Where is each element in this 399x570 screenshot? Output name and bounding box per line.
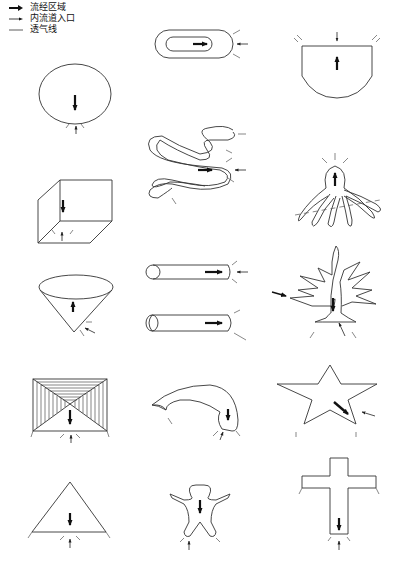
legend-item-vent-line: 透气线 [8,24,75,35]
legend-label: 流经区域 [30,2,66,13]
inlet-arrow-icon [85,328,95,333]
gating-diagram [0,0,399,570]
legend-label: 透气线 [30,24,57,35]
line-icon [8,26,24,34]
shape-horn [152,385,240,440]
shape-tree [272,246,376,338]
shape-bowl [294,32,380,98]
shape-snake [149,126,247,204]
inlet-arrow-icon [362,412,375,416]
thick-arrow-icon [8,4,24,12]
legend-label: 内流道入口 [30,13,75,24]
legend: 流经区域 内流道入口 透气线 [8,2,75,35]
flow-arrow-icon [334,402,348,414]
shape-tubes [146,261,248,340]
shape-triangle [28,482,110,548]
shape-star [277,365,377,437]
shape-pyramid-frame [31,379,109,443]
inlet-arrow-icon [220,432,223,440]
shape-octopus [295,153,381,227]
shape-oval-ring [155,30,248,58]
shape-cross [299,458,379,550]
legend-item-inlet: 内流道入口 [8,13,75,24]
shape-cone [39,275,113,336]
thin-arrow-icon [8,15,24,23]
inlet-arrow-icon [339,323,345,336]
shape-human-figure [170,485,230,550]
shape-box [38,180,112,243]
shape-ellipse [39,64,111,134]
legend-item-flow-region: 流经区域 [8,2,75,13]
